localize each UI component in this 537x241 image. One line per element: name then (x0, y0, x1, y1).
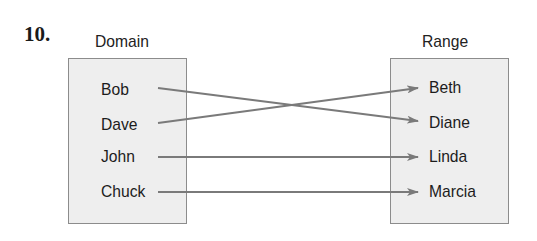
mapping-arrows (0, 0, 537, 241)
